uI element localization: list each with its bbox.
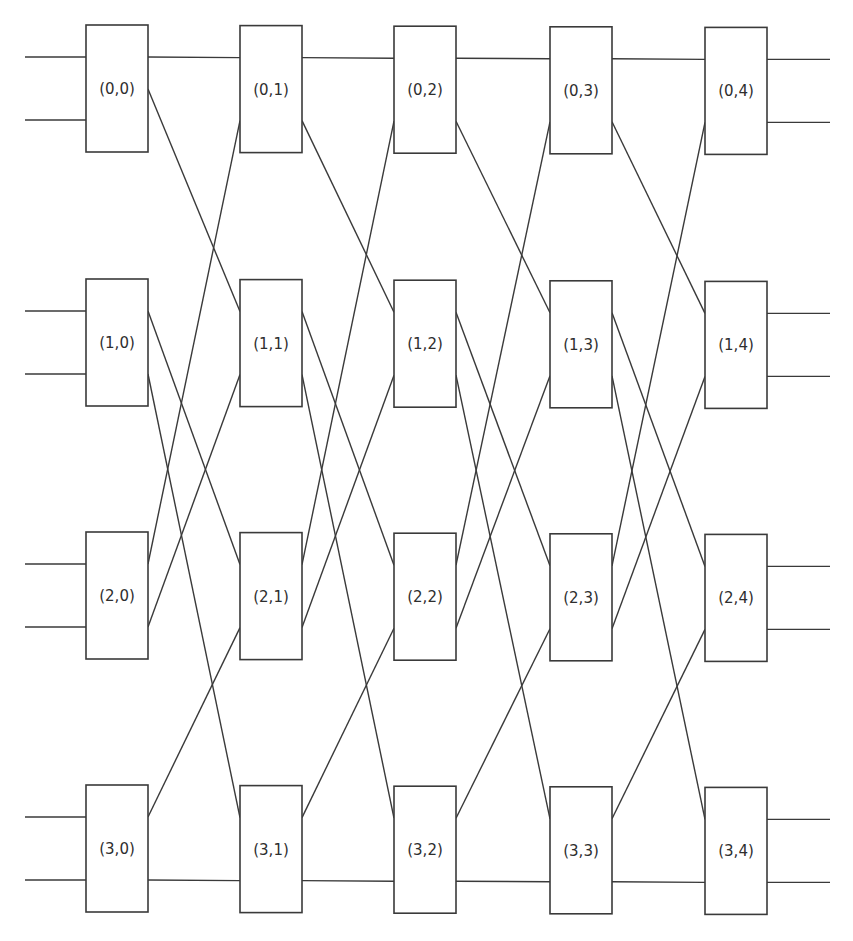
- node-label: (3,1): [253, 841, 289, 859]
- connection-wire: [148, 57, 240, 58]
- switch-node: (3,4): [705, 787, 767, 914]
- connection-wire: [456, 58, 550, 59]
- connection-wire: [148, 628, 240, 817]
- connection-wire: [302, 628, 394, 817]
- connection-wire: [148, 89, 240, 312]
- switch-node: (2,3): [550, 534, 612, 661]
- connection-wire: [302, 121, 394, 313]
- switch-node: (2,4): [705, 534, 767, 661]
- node-label: (2,2): [407, 588, 443, 606]
- node-label: (0,4): [718, 82, 754, 100]
- switch-node: (1,2): [394, 280, 456, 407]
- switch-node: (3,0): [86, 785, 148, 912]
- connection-wires: [25, 57, 830, 882]
- connection-wire: [302, 121, 394, 564]
- node-label: (2,0): [99, 587, 135, 605]
- connection-wire: [456, 122, 550, 565]
- switch-node: (1,4): [705, 281, 767, 408]
- switch-nodes: (0,0)(0,1)(0,2)(0,3)(0,4)(1,0)(1,1)(1,2)…: [86, 25, 767, 914]
- switch-node: (0,3): [550, 27, 612, 154]
- butterfly-network-diagram: (0,0)(0,1)(0,2)(0,3)(0,4)(1,0)(1,1)(1,2)…: [0, 0, 853, 941]
- node-label: (1,0): [99, 334, 135, 352]
- node-label: (0,3): [563, 82, 599, 100]
- node-label: (2,3): [563, 589, 599, 607]
- node-label: (1,1): [253, 335, 289, 353]
- node-label: (1,3): [563, 336, 599, 354]
- switch-node: (0,2): [394, 26, 456, 153]
- node-label: (2,4): [718, 589, 754, 607]
- switch-node: (2,2): [394, 533, 456, 660]
- switch-node: (0,4): [705, 27, 767, 154]
- connection-wire: [456, 121, 550, 313]
- node-label: (0,0): [99, 80, 135, 98]
- connection-wire: [456, 629, 550, 818]
- switch-node: (3,1): [240, 786, 302, 913]
- switch-node: (1,0): [86, 279, 148, 406]
- connection-wire: [302, 375, 394, 819]
- connection-wire: [148, 121, 240, 564]
- switch-node: (1,3): [550, 281, 612, 408]
- connection-wire: [456, 881, 550, 882]
- node-label: (0,2): [407, 81, 443, 99]
- node-label: (0,1): [253, 81, 289, 99]
- connection-wire: [148, 374, 240, 818]
- connection-wire: [612, 122, 705, 565]
- switch-node: (1,1): [240, 280, 302, 407]
- switch-node: (0,1): [240, 26, 302, 153]
- connection-wire: [302, 881, 394, 882]
- node-label: (1,2): [407, 335, 443, 353]
- switch-node: (2,0): [86, 532, 148, 659]
- connection-wire: [612, 122, 705, 314]
- node-label: (3,3): [563, 842, 599, 860]
- connection-wire: [612, 629, 705, 818]
- switch-node: (3,2): [394, 786, 456, 913]
- node-label: (1,4): [718, 336, 754, 354]
- switch-node: (0,0): [86, 25, 148, 152]
- switch-node: (2,1): [240, 533, 302, 660]
- node-label: (2,1): [253, 588, 289, 606]
- node-label: (3,4): [718, 842, 754, 860]
- node-label: (3,2): [407, 841, 443, 859]
- connection-wire: [148, 880, 240, 881]
- node-label: (3,0): [99, 840, 135, 858]
- switch-node: (3,3): [550, 787, 612, 914]
- connection-wire: [612, 376, 705, 820]
- connection-wire: [612, 882, 705, 883]
- connection-wire: [456, 375, 550, 819]
- connection-wire: [612, 59, 705, 60]
- connection-wire: [302, 58, 394, 59]
